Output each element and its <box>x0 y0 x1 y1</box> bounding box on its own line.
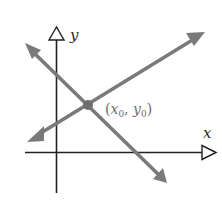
x-axis: x <box>25 124 216 160</box>
x-axis-label: x <box>203 124 212 142</box>
coordinate-plane: y x (x0, y0) <box>0 0 222 201</box>
rising-line-lower-arrow-icon <box>27 126 44 142</box>
label-close-paren: ) <box>147 101 152 117</box>
intersection-point <box>83 100 93 110</box>
y-axis-arrow-icon <box>49 27 64 40</box>
x-axis-arrow-icon <box>202 146 216 160</box>
label-x-var: x <box>110 101 118 117</box>
intersection-label: (x0, y0) <box>105 101 152 119</box>
rising-line <box>27 32 205 142</box>
label-separator: , <box>124 101 133 117</box>
y-axis: y <box>49 26 79 193</box>
y-axis-label: y <box>69 26 79 44</box>
diagram-canvas: y x (x0, y0) <box>0 0 222 201</box>
